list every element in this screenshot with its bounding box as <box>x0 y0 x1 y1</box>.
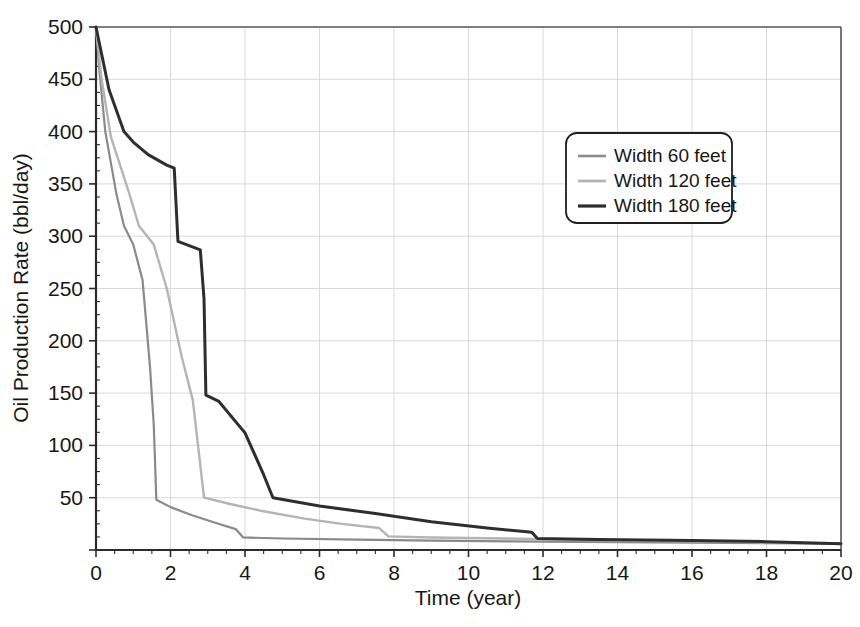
x-axis-title: Time (year) <box>415 586 522 609</box>
chart-legend: Width 60 feet Width 120 feet Width 180 f… <box>566 133 737 223</box>
legend-label-width-60: Width 60 feet <box>614 145 727 166</box>
y-tick-label: 100 <box>48 433 83 456</box>
y-tick-label: 250 <box>48 277 83 300</box>
x-tick-label: 10 <box>457 561 480 584</box>
y-tick-label: 150 <box>48 381 83 404</box>
chart-container: 0246810121416182050100150200250300350400… <box>0 0 860 627</box>
x-tick-label: 20 <box>829 561 852 584</box>
y-tick-label: 350 <box>48 172 83 195</box>
y-tick-label: 200 <box>48 329 83 352</box>
gridlines-group <box>96 27 841 550</box>
y-tick-label: 300 <box>48 224 83 247</box>
y-tick-label: 450 <box>48 67 83 90</box>
x-tick-label: 0 <box>90 561 102 584</box>
x-tick-label: 4 <box>239 561 251 584</box>
legend-label-width-120: Width 120 feet <box>614 170 737 191</box>
x-tick-label: 18 <box>755 561 778 584</box>
x-tick-label: 6 <box>314 561 326 584</box>
x-tick-label: 16 <box>680 561 703 584</box>
x-tick-label: 12 <box>531 561 554 584</box>
y-tick-label: 500 <box>48 15 83 38</box>
oil-production-decline-chart: 0246810121416182050100150200250300350400… <box>0 0 860 627</box>
y-tick-label: 400 <box>48 120 83 143</box>
y-tick-label: 50 <box>60 486 83 509</box>
y-axis-title: Oil Production Rate (bbl/day) <box>9 153 32 423</box>
x-tick-label: 2 <box>165 561 177 584</box>
x-tick-label: 8 <box>388 561 400 584</box>
x-tick-label: 14 <box>606 561 630 584</box>
legend-label-width-180: Width 180 feet <box>614 195 737 216</box>
